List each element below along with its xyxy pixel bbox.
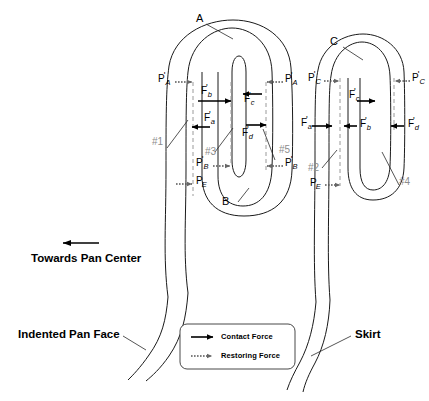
label-left-pe: PE — [196, 176, 208, 186]
label-right-fd: F'd — [408, 119, 420, 129]
label-left-pb-right: P'B — [285, 158, 298, 168]
right-restoring-arrows — [324, 81, 410, 185]
left-leader-lines — [167, 24, 275, 202]
label-left-pb-left: P'B — [196, 158, 209, 168]
legend-item-restoring-force: Restoring Force — [221, 352, 280, 360]
label-left-fd: F'd — [242, 128, 254, 138]
reference-number-5: #5 — [279, 145, 290, 155]
label-right-pc-right: P'C — [412, 73, 426, 83]
reference-number-1: #1 — [152, 137, 163, 147]
label-left-fb: F'b — [201, 86, 213, 96]
skirt-label: Skirt — [355, 329, 381, 341]
label-left-fa: F'a — [204, 113, 216, 123]
reference-number-3: #3 — [205, 147, 216, 157]
diagram-canvas — [0, 0, 429, 401]
label-right-fc: F'c — [349, 90, 361, 100]
reference-number-4: #4 — [399, 177, 410, 187]
label-right-fb: F'b — [360, 119, 372, 129]
label-right-pe: PE — [310, 178, 322, 188]
reference-number-2: #2 — [308, 163, 319, 173]
indented-pan-face-label: Indented Pan Face — [18, 329, 120, 341]
label-left-fc: F'c — [244, 94, 256, 104]
callout-b: B — [222, 196, 229, 207]
legend-item-contact-force: Contact Force — [221, 333, 273, 341]
direction-label: Towards Pan Center — [31, 253, 141, 265]
label-left-pa-left: P'A — [158, 74, 171, 84]
legend-panel — [180, 324, 295, 369]
label-right-pc-left: P'C — [308, 73, 322, 83]
label-right-fa: F'a — [301, 118, 313, 128]
callout-c: C — [330, 36, 338, 47]
label-left-pa-right: P'A — [285, 74, 298, 84]
callout-a: A — [196, 13, 203, 24]
force-diagram: A B C #1 #2 #3 #4 #5 P'A P'A P'B P'B PE … — [0, 0, 429, 401]
